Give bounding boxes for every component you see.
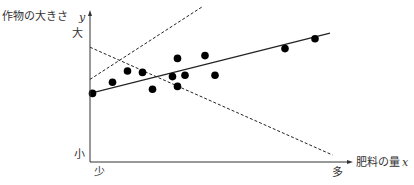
scatter-chart: 作物の大きさ y 大 小 少 多 肥料の量 x <box>0 0 414 185</box>
data-point-9 <box>201 52 209 60</box>
data-point-6 <box>169 73 177 81</box>
x-low-label: 少 <box>94 166 105 179</box>
data-point-4 <box>149 85 157 93</box>
y-axis-var: y <box>78 11 86 24</box>
x-axis-arrow <box>347 160 353 164</box>
data-point-12 <box>311 35 319 43</box>
data-point-3 <box>139 69 147 77</box>
x-high-label: 多 <box>332 165 343 179</box>
data-point-11 <box>281 45 289 53</box>
y-high-label: 大 <box>72 26 83 40</box>
y-low-label: 小 <box>74 148 85 161</box>
data-point-10 <box>211 71 219 79</box>
data-point-8 <box>174 83 182 91</box>
data-point-1 <box>109 78 117 86</box>
y-axis-label: 作物の大きさ <box>2 9 68 23</box>
x-axis-var: x <box>402 156 409 169</box>
y-axis-arrow <box>88 10 92 16</box>
data-point-5 <box>174 55 182 63</box>
data-point-7 <box>181 71 189 79</box>
x-axis-label: 肥料の量 <box>356 155 400 169</box>
line-regression <box>90 33 330 93</box>
data-point-2 <box>124 67 132 75</box>
line-dashed-increasing <box>90 7 203 80</box>
